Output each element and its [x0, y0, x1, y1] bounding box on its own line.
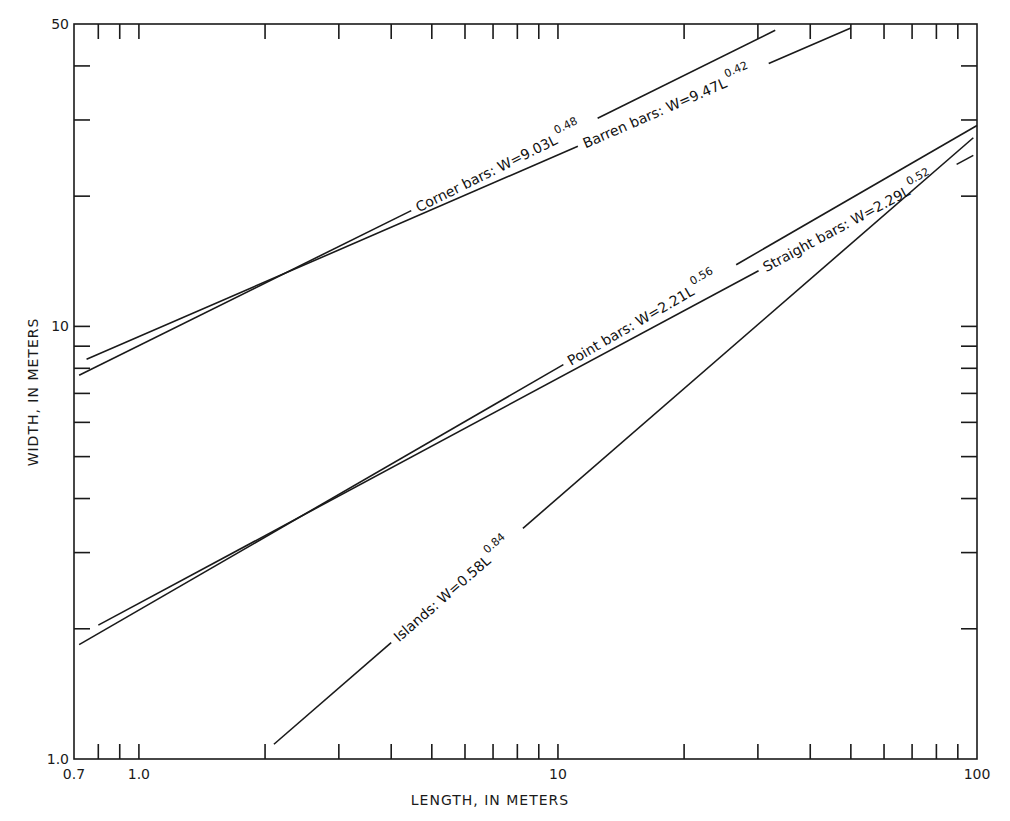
- islands-line: [274, 643, 391, 745]
- corner-bars-label: Corner bars: W=9.03L0.48: [410, 114, 583, 215]
- x-axis-title: LENGTH, IN METERS: [411, 792, 569, 808]
- straight-bars-line: [98, 271, 758, 625]
- x-tick-label: 0.7: [63, 766, 85, 782]
- svg-text:Islands: W=0.58L0.84: Islands: W=0.58L0.84: [387, 530, 514, 644]
- point-bars-label: Point bars: W=2.21L0.56: [562, 264, 720, 368]
- axis-ticks: [74, 24, 977, 759]
- x-tick-label: 10: [549, 766, 567, 782]
- y-tick-label: 50: [51, 16, 69, 32]
- y-tick-label: 10: [51, 318, 69, 334]
- barren-bars-label: Barren bars: W=9.47L0.42: [578, 59, 754, 152]
- svg-text:Barren bars: W=9.47L0.42: Barren bars: W=9.47L0.42: [578, 59, 754, 152]
- straight-bars-label: Straight bars: W=2.29L0.52: [757, 165, 936, 275]
- plot-border: [74, 24, 977, 759]
- curve-labels: Corner bars: W=9.03L0.48Barren bars: W=9…: [387, 59, 936, 645]
- y-axis-title: WIDTH, IN METERS: [25, 318, 41, 467]
- barren-bars-line: [87, 146, 578, 359]
- islands-label: Islands: W=0.58L0.84: [387, 530, 514, 644]
- svg-text:Point bars: W=2.21L0.56: Point bars: W=2.21L0.56: [562, 264, 720, 368]
- svg-text:Corner bars: W=9.03L0.48: Corner bars: W=9.03L0.48: [410, 114, 583, 215]
- plot-frame: [74, 24, 977, 759]
- x-tick-label: 1.0: [128, 766, 150, 782]
- svg-text:Straight bars: W=2.29L0.52: Straight bars: W=2.29L0.52: [757, 165, 936, 275]
- fit-lines: [79, 28, 977, 744]
- straight-bars-line: [957, 155, 974, 164]
- point-bars-line: [736, 125, 977, 264]
- y-tick-label: 1.0: [47, 751, 69, 767]
- corner-bars-line: [79, 211, 411, 376]
- x-tick-label: 100: [964, 766, 991, 782]
- log-log-chart: 0.71.0101001.01050 Corner bars: W=9.03L0…: [0, 0, 1010, 821]
